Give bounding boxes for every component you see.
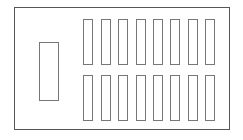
bar-r1-c1 xyxy=(83,19,93,65)
side-block xyxy=(39,42,59,101)
bar-r1-c2 xyxy=(101,19,111,65)
bar-r1-c8 xyxy=(205,19,215,65)
bar-r2-c4 xyxy=(136,75,146,121)
bar-r2-c1 xyxy=(83,75,93,121)
bar-r1-c4 xyxy=(136,19,146,65)
bar-r2-c5 xyxy=(153,75,163,121)
bar-r1-c5 xyxy=(153,19,163,65)
bar-r2-c3 xyxy=(118,75,128,121)
bar-r1-c3 xyxy=(118,19,128,65)
bar-r2-c2 xyxy=(101,75,111,121)
bar-r2-c8 xyxy=(205,75,215,121)
bar-r1-c6 xyxy=(170,19,180,65)
bar-r2-c6 xyxy=(170,75,180,121)
bar-r1-c7 xyxy=(188,19,198,65)
bar-r2-c7 xyxy=(188,75,198,121)
